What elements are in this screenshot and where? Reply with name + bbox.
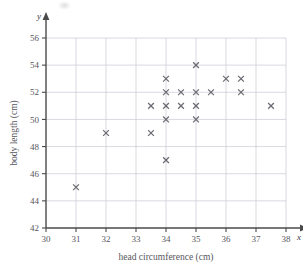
y-tick-label: 46 <box>30 169 40 179</box>
x-tick-label: 30 <box>42 234 52 244</box>
y-tick-label: 50 <box>30 115 40 125</box>
x-tick-label: 38 <box>282 234 292 244</box>
axis-labels-group: head circumference (cm)body length (cm)x… <box>9 11 301 263</box>
gridlines-group <box>46 38 286 228</box>
y-axis-arrowhead <box>43 12 50 20</box>
data-point-marker <box>148 130 154 136</box>
x-axis-title: head circumference (cm) <box>119 252 214 263</box>
data-point-marker <box>178 103 184 109</box>
y-tick-label: 42 <box>30 223 39 233</box>
y-axis-title: body length (cm) <box>9 100 20 165</box>
axes-group <box>43 12 303 231</box>
scatter-plot-figure: 3031323334353637384244464850525456head c… <box>0 0 303 280</box>
x-tick-label: 36 <box>222 234 232 244</box>
y-axis-variable-label: y <box>36 11 41 21</box>
x-tick-label: 32 <box>102 234 111 244</box>
x-tick-label: 31 <box>72 234 81 244</box>
x-axis-variable-label: x <box>296 232 301 242</box>
y-tick-label: 54 <box>30 60 40 70</box>
y-tick-label: 44 <box>30 196 40 206</box>
data-point-marker <box>268 103 274 109</box>
plot-canvas: 3031323334353637384244464850525456head c… <box>0 0 303 280</box>
y-tick-label: 52 <box>30 87 39 97</box>
x-tick-label: 34 <box>162 234 172 244</box>
data-points-group <box>73 62 274 190</box>
y-tick-label: 48 <box>30 142 40 152</box>
y-tick-label: 56 <box>30 33 40 43</box>
x-tick-label: 33 <box>132 234 142 244</box>
data-point-marker <box>148 103 154 109</box>
x-axis-arrowhead <box>300 225 303 232</box>
data-point-marker <box>238 76 244 82</box>
x-tick-label: 37 <box>252 234 262 244</box>
x-tick-label: 35 <box>192 234 202 244</box>
